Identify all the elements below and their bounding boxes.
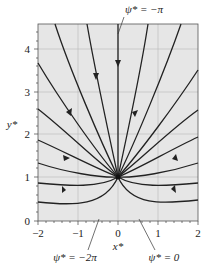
x-tick-label: −1	[72, 227, 84, 239]
x-tick-label: 2	[195, 227, 201, 239]
x-tick-label: −2	[32, 227, 44, 239]
y-tick-label: 3	[25, 86, 31, 98]
y-tick-label: 2	[25, 128, 31, 140]
x-tick-label: 0	[115, 227, 121, 239]
y-tick-label: 0	[25, 215, 31, 227]
annotation-psi-zero: ψ* = 0	[149, 251, 180, 263]
y-tick-label: 4	[25, 43, 31, 55]
streamline-chart: −2 −1 0 1 2 0 1 2 3 4 x* y* ψ* = −π ψ* =…	[0, 0, 212, 272]
annotation-psi-minus-pi: ψ* = −π	[125, 3, 164, 15]
x-tick-label: 1	[155, 227, 161, 239]
y-tick-label: 1	[25, 171, 31, 183]
x-axis-label: x*	[112, 240, 124, 252]
sink-point	[116, 175, 121, 180]
annotation-psi-minus-2pi: ψ* = −2π	[53, 251, 97, 263]
y-axis-label: y*	[6, 118, 18, 130]
